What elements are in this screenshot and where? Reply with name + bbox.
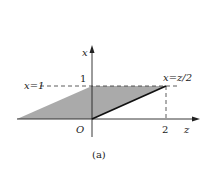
figure-caption: (a)	[92, 149, 106, 160]
origin-label: O	[76, 124, 84, 135]
x-axis-arrow-icon	[90, 45, 95, 53]
z-axis-label: z	[183, 124, 190, 135]
x-eq-1-label: x=1	[24, 80, 44, 91]
x-axis-label: x	[82, 47, 88, 58]
x-tick-label: 1	[80, 73, 86, 84]
diagram-canvas: x 1 x=1 x=z/2 O 2 z (a)	[0, 0, 208, 174]
x-eq-z-over-2-label: x=z/2	[163, 72, 192, 83]
z-tick-label: 2	[162, 124, 168, 135]
z-axis-arrow-icon	[192, 117, 200, 122]
